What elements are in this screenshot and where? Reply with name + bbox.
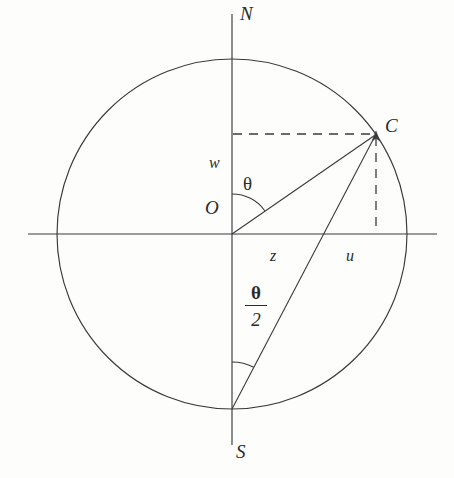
label-origin-o: O bbox=[205, 198, 219, 217]
chord-line-sc bbox=[232, 136, 375, 409]
theta-angle-arc bbox=[232, 194, 265, 211]
label-segment-u: u bbox=[346, 248, 354, 264]
radius-line-oc bbox=[232, 136, 375, 235]
fraction-bar bbox=[245, 305, 267, 306]
label-north: N bbox=[240, 4, 253, 23]
half-theta-numerator: θ bbox=[251, 283, 261, 303]
label-point-c: C bbox=[385, 116, 398, 135]
label-angle-half-theta: θ 2 bbox=[245, 283, 267, 329]
label-segment-z: z bbox=[270, 248, 276, 264]
half-theta-angle-arc bbox=[232, 362, 254, 367]
half-theta-denominator: 2 bbox=[251, 309, 261, 329]
geometry-figure: N S C O w z u θ θ 2 bbox=[0, 0, 454, 478]
label-south: S bbox=[236, 442, 246, 461]
diagram-canvas bbox=[0, 0, 454, 478]
label-segment-w: w bbox=[209, 155, 220, 171]
label-angle-theta: θ bbox=[243, 174, 252, 193]
